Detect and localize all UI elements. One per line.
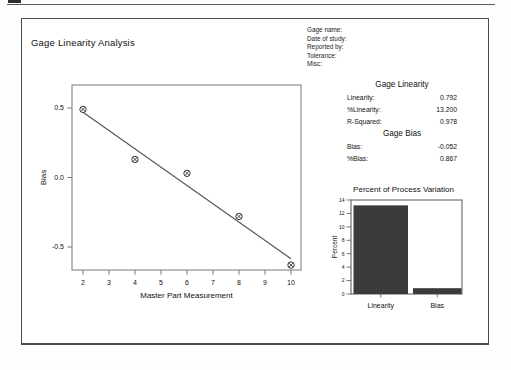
x-tick-label: 8 bbox=[237, 279, 241, 286]
stat-value: 0.978 bbox=[440, 116, 457, 128]
stat-label: Linearity: bbox=[347, 92, 375, 104]
stat-row-pct-bias: %Bias: 0.867 bbox=[347, 153, 457, 165]
study-info-reported: Reported by: bbox=[307, 43, 346, 52]
stat-label: %Linearity: bbox=[347, 104, 381, 116]
bar-y-tick-label: 12 bbox=[339, 210, 345, 216]
stat-row-r-squared: R-Squared: 0.978 bbox=[347, 116, 457, 128]
stat-row-bias: Bias: -0.052 bbox=[347, 141, 457, 153]
x-tick-label: 7 bbox=[211, 279, 215, 286]
x-tick-label: 3 bbox=[107, 279, 111, 286]
report-title: Gage Linearity Analysis bbox=[31, 37, 135, 48]
gage-bias-header: Gage Bias bbox=[347, 128, 457, 141]
stat-label: %Bias: bbox=[347, 153, 368, 165]
bar-category-label: Linearity bbox=[368, 302, 395, 310]
bar-y-tick-label: 6 bbox=[342, 251, 345, 257]
x-tick-label: 9 bbox=[263, 279, 267, 286]
stat-row-linearity: Linearity: 0.792 bbox=[347, 92, 457, 104]
page-header-text-fragment bbox=[8, 0, 21, 3]
x-tick-label: 2 bbox=[81, 279, 85, 286]
percent-variation-bar-chart: Percent of Process Variation02468101214P… bbox=[328, 179, 472, 313]
x-tick-label: 6 bbox=[185, 279, 189, 286]
bar-y-tick-label: 8 bbox=[342, 237, 345, 243]
stats-panel: Gage Linearity Linearity: 0.792 %Lineari… bbox=[347, 79, 457, 165]
bar-linearity bbox=[354, 205, 409, 294]
study-info-date: Date of study: bbox=[307, 35, 346, 44]
study-info-misc: Misc: bbox=[307, 60, 346, 69]
study-info-gage-name: Gage name: bbox=[307, 26, 346, 35]
x-tick-label: 10 bbox=[287, 279, 295, 286]
plot-frame bbox=[72, 85, 301, 270]
linearity-scatter-plot: 0.50.0-0.52345678910Master Part Measurem… bbox=[36, 78, 310, 306]
stat-value: 0.792 bbox=[440, 92, 457, 104]
bar-y-tick-label: 14 bbox=[339, 197, 345, 203]
x-tick-label: 4 bbox=[133, 279, 137, 286]
report-page: Gage Linearity Analysis Gage name: Date … bbox=[0, 0, 511, 370]
x-axis-label: Master Part Measurement bbox=[140, 291, 233, 300]
study-info-tolerance: Tolerance: bbox=[307, 52, 346, 61]
study-info-block: Gage name: Date of study: Reported by: T… bbox=[307, 26, 346, 69]
y-tick-label: 0.0 bbox=[54, 174, 64, 181]
stat-row-pct-linearity: %Linearity: 13.200 bbox=[347, 104, 457, 116]
bar-bias bbox=[413, 288, 462, 294]
bar-chart-title: Percent of Process Variation bbox=[353, 185, 454, 194]
y-tick-label: -0.5 bbox=[52, 243, 64, 250]
bar-y-axis-label: Percent bbox=[331, 236, 338, 259]
stat-label: R-Squared: bbox=[347, 116, 382, 128]
bar-y-tick-label: 4 bbox=[342, 264, 345, 270]
stat-value: -0.052 bbox=[438, 141, 457, 153]
bar-y-tick-label: 2 bbox=[342, 277, 345, 283]
bar-y-tick-label: 10 bbox=[339, 224, 345, 230]
stat-value: 0.867 bbox=[440, 153, 457, 165]
stat-value: 13.200 bbox=[436, 104, 457, 116]
bar-y-tick-label: 0 bbox=[342, 291, 345, 297]
stat-label: Bias: bbox=[347, 141, 362, 153]
gage-linearity-header: Gage Linearity bbox=[347, 79, 457, 92]
bar-category-label: Bias bbox=[430, 302, 444, 309]
y-tick-label: 0.5 bbox=[54, 104, 64, 111]
page-header-rule bbox=[7, 4, 495, 6]
x-tick-label: 5 bbox=[159, 279, 163, 286]
y-axis-label: Bias bbox=[39, 170, 48, 186]
